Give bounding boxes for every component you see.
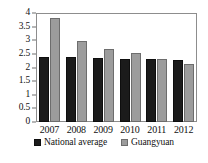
bar-group: [172, 13, 195, 122]
bar-guangyuan: [104, 49, 114, 122]
y-axis-tick-label: 0: [25, 117, 30, 127]
bar-national-average: [93, 58, 103, 122]
x-axis-tick-label: 2009: [93, 123, 112, 136]
gray-square-swatch-icon: [121, 139, 128, 146]
legend-item-guangyuan: Guangyuan: [121, 138, 174, 148]
bar-group: [92, 13, 115, 122]
bar-group: [38, 13, 61, 122]
y-axis-tick-label: 4: [25, 8, 30, 18]
x-axis-tick-label: 2011: [147, 123, 166, 136]
legend-item-national-average: National average: [34, 138, 107, 148]
x-axis-tick-label: 2007: [40, 123, 59, 136]
y-axis: 00.511.522.533.54: [0, 13, 36, 122]
legend-label: National average: [44, 138, 107, 148]
black-square-swatch-icon: [34, 139, 41, 146]
chart-legend: National average Guangyuan: [0, 138, 208, 148]
y-axis-tick-label: 1.5: [19, 76, 30, 86]
y-axis-tick-label: 2.5: [19, 49, 30, 59]
y-axis-tick-label: 2: [25, 63, 30, 73]
bars-layer: [36, 13, 197, 122]
bar-national-average: [120, 59, 130, 122]
bar-group: [119, 13, 142, 122]
bar-guangyuan: [77, 41, 87, 122]
bar-guangyuan: [184, 64, 194, 122]
bar-guangyuan: [157, 59, 167, 122]
bar-guangyuan: [131, 53, 141, 122]
y-axis-tick-label: 3.5: [19, 22, 30, 32]
bar-guangyuan: [50, 18, 60, 122]
y-axis-tick-label: 1: [25, 90, 30, 100]
y-axis-tick-label: 0.5: [19, 104, 30, 114]
bar-national-average: [66, 57, 76, 122]
bar-group: [65, 13, 88, 122]
legend-label: Guangyuan: [131, 138, 174, 148]
bar-national-average: [146, 59, 156, 122]
x-axis-tick-label: 2010: [120, 123, 139, 136]
bar-national-average: [39, 57, 49, 122]
x-axis-tick-label: 2012: [174, 123, 193, 136]
x-axis: 200720082009201020112012: [36, 123, 197, 137]
bar-chart: 00.511.522.533.54 2007200820092010201120…: [0, 0, 208, 163]
bar-national-average: [173, 60, 183, 122]
x-axis-tick-label: 2008: [67, 123, 86, 136]
bar-group: [145, 13, 168, 122]
y-axis-tick-label: 3: [25, 36, 30, 46]
